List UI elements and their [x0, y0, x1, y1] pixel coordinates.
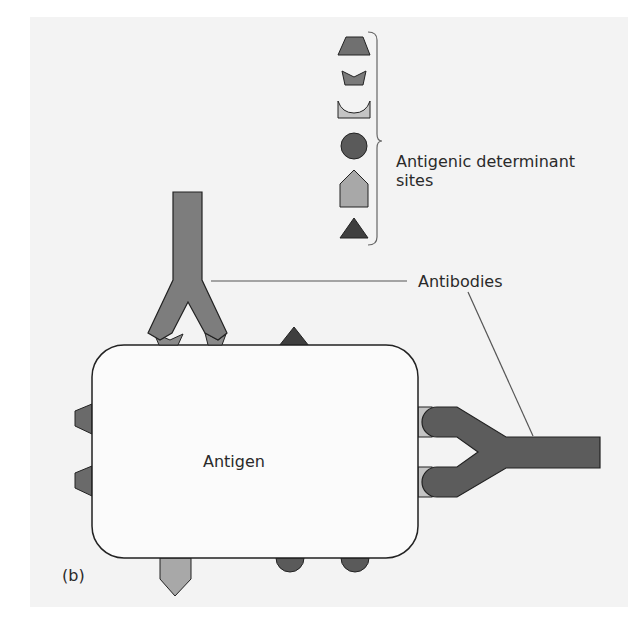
panel-label: (b): [62, 566, 85, 585]
notched-trapezoid-site-icon: [342, 71, 366, 85]
pentagon-site-icon: [340, 170, 368, 207]
antibody-right: [422, 407, 600, 497]
legend-shapes: [338, 37, 370, 238]
circle-site-bottom-2: [341, 558, 369, 572]
trapezoid-site-left-2: [75, 466, 92, 496]
curly-brace-icon: [368, 32, 382, 245]
antigenic-determinant-sites-label: Antigenic determinant sites: [396, 152, 596, 190]
triangle-site-icon: [340, 218, 368, 238]
antibody-top-body: [148, 192, 227, 340]
antibody-top: [148, 192, 227, 345]
triangle-site: [279, 327, 309, 346]
leader-line-right-antibody: [468, 292, 533, 436]
antigen-antibody-diagram: [0, 0, 638, 626]
trapezoid-site-icon: [338, 37, 370, 55]
circle-site-bottom-1: [276, 558, 304, 572]
antibody-right-body: [422, 407, 600, 497]
trapezoid-site-left-1: [75, 404, 92, 434]
antigen-label: Antigen: [203, 452, 265, 471]
cup-site-icon: [338, 101, 370, 118]
circle-site-icon: [341, 133, 367, 159]
antibodies-label: Antibodies: [418, 272, 503, 291]
pentagon-site-bottom: [160, 558, 191, 596]
